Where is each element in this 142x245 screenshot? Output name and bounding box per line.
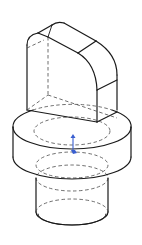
isometric-part-drawing: [0, 0, 142, 245]
shank-cylinder: [36, 152, 108, 225]
origin-axis-marker: [71, 134, 78, 154]
rounded-tab: [27, 22, 117, 122]
flange-cylinder: [13, 104, 131, 179]
